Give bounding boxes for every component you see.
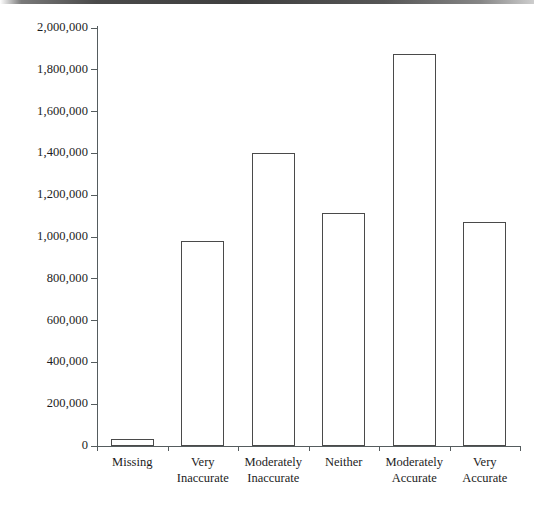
y-axis-tick-label: 2,000,000 (2, 21, 88, 34)
x-axis-tick (520, 446, 521, 451)
y-axis-tick-label: 0 (2, 439, 88, 452)
bar (252, 153, 295, 446)
bar-chart: 0200,000400,000600,000800,0001,000,0001,… (0, 0, 534, 516)
y-axis-tick-label: 1,200,000 (2, 188, 88, 201)
bar (393, 54, 436, 446)
y-axis-tick-label: 1,400,000 (2, 146, 88, 159)
y-axis-tick-label: 1,800,000 (2, 63, 88, 76)
bar (111, 439, 154, 446)
bar (322, 213, 365, 446)
y-axis-tick-label: 400,000 (2, 355, 88, 368)
y-axis-labels: 0200,000400,000600,000800,0001,000,0001,… (0, 0, 88, 516)
x-axis-labels: MissingVeryInaccurateModeratelyInaccurat… (97, 455, 520, 503)
x-axis-tick (97, 446, 98, 451)
bar (181, 241, 224, 446)
x-axis-tick (379, 446, 380, 451)
y-axis-tick-label: 200,000 (2, 397, 88, 410)
y-axis-tick-label: 800,000 (2, 272, 88, 285)
x-axis-tick (309, 446, 310, 451)
y-axis-tick-label: 1,000,000 (2, 230, 88, 243)
x-axis-tick (450, 446, 451, 451)
x-axis-tick (238, 446, 239, 451)
x-axis-tick (168, 446, 169, 451)
y-axis-tick-label: 1,600,000 (2, 105, 88, 118)
plot-area (97, 28, 520, 446)
y-axis-tick-label: 600,000 (2, 314, 88, 327)
x-axis-category-label: VeryAccurate (444, 455, 527, 486)
bar (463, 222, 506, 446)
